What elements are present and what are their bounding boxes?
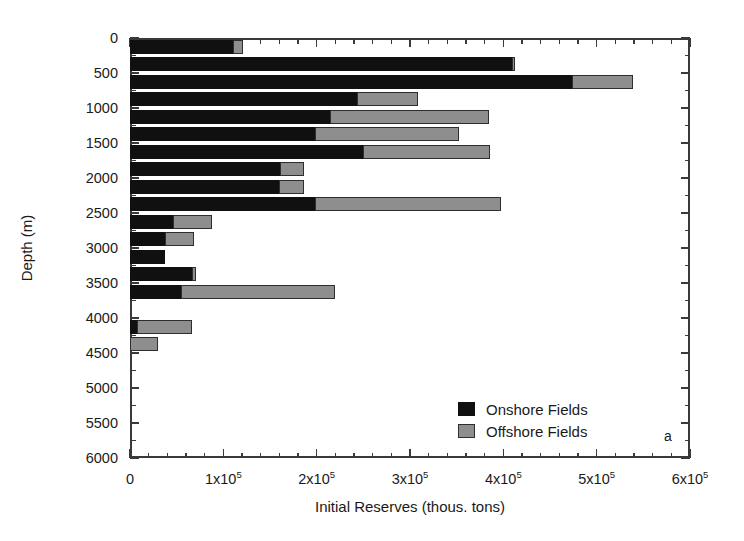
y-tick-label: 5000 <box>86 381 118 396</box>
x-minor-tick-top <box>372 38 373 44</box>
y-tick-label: 0 <box>110 31 118 46</box>
bar-segment-offshore <box>330 110 490 124</box>
bar-segment-onshore <box>130 40 233 54</box>
x-minor-tick <box>540 453 541 459</box>
x-minor-tick <box>465 453 466 459</box>
x-tick-label: 1x105 <box>205 472 242 487</box>
y-tick-label: 4500 <box>86 346 118 361</box>
x-minor-tick <box>185 453 186 459</box>
x-minor-tick-top <box>615 38 616 44</box>
y-major-tick-right <box>681 352 690 353</box>
bar-segment-offshore <box>233 40 243 54</box>
x-axis-title: Initial Reserves (thous. tons) <box>315 498 505 515</box>
y-major-tick <box>130 457 139 458</box>
x-minor-tick <box>335 453 336 459</box>
bar-segment-offshore <box>512 57 516 71</box>
bar-segment-onshore <box>130 197 315 211</box>
y-minor-tick <box>130 300 136 301</box>
x-minor-tick <box>260 453 261 459</box>
y-minor-tick-right <box>685 265 691 266</box>
bar-segment-onshore <box>130 215 173 229</box>
y-minor-tick-right <box>685 335 691 336</box>
y-major-tick-right <box>681 247 690 248</box>
y-minor-tick <box>130 55 136 56</box>
bar-segment-offshore <box>130 337 158 351</box>
bar-segment-onshore <box>130 110 330 124</box>
bar-segment-offshore <box>280 162 303 176</box>
x-minor-tick <box>297 453 298 459</box>
legend-label-offshore: Offshore Fields <box>486 423 587 440</box>
x-tick-label: 0 <box>126 472 134 487</box>
bar-segment-offshore <box>363 145 490 159</box>
y-minor-tick-right <box>685 300 691 301</box>
x-major-tick <box>503 449 504 458</box>
y-minor-tick <box>130 335 136 336</box>
x-tick-label: 4x105 <box>485 472 522 487</box>
y-major-tick-right <box>681 37 690 38</box>
x-minor-tick-top <box>260 38 261 44</box>
y-major-tick-right <box>681 422 690 423</box>
bar-segment-onshore <box>130 162 280 176</box>
y-major-tick-right <box>681 142 690 143</box>
bar-segment-onshore <box>130 250 165 264</box>
x-minor-tick <box>559 453 560 459</box>
y-minor-tick-right <box>685 125 691 126</box>
y-major-tick <box>130 282 139 283</box>
y-tick-label: 2500 <box>86 206 118 221</box>
y-major-tick <box>130 317 139 318</box>
bar-segment-onshore <box>130 285 181 299</box>
bar-segment-offshore <box>173 215 212 229</box>
x-minor-tick-top <box>465 38 466 44</box>
x-major-tick-top <box>503 38 504 47</box>
bar-segment-offshore <box>165 232 195 246</box>
y-minor-tick <box>130 90 136 91</box>
y-minor-tick-right <box>685 405 691 406</box>
x-minor-tick-top <box>391 38 392 44</box>
y-major-tick <box>130 177 139 178</box>
x-minor-tick-top <box>671 38 672 44</box>
bar-segment-offshore <box>137 320 192 334</box>
y-major-tick <box>130 72 139 73</box>
x-minor-tick <box>148 453 149 459</box>
y-minor-tick-right <box>685 370 691 371</box>
x-minor-tick <box>671 453 672 459</box>
y-major-tick-right <box>681 457 690 458</box>
y-major-tick <box>130 387 139 388</box>
x-minor-tick <box>241 453 242 459</box>
bar-segment-onshore <box>130 57 512 71</box>
x-minor-tick-top <box>353 38 354 44</box>
y-minor-tick-right <box>685 440 691 441</box>
y-minor-tick-right <box>685 55 691 56</box>
bar-segment-offshore <box>572 75 633 89</box>
x-minor-tick <box>633 453 634 459</box>
x-minor-tick <box>652 453 653 459</box>
bar-segment-offshore <box>315 127 460 141</box>
x-minor-tick <box>353 453 354 459</box>
x-minor-tick <box>521 453 522 459</box>
x-minor-tick-top <box>540 38 541 44</box>
legend-item-offshore: Offshore Fields <box>458 420 638 442</box>
y-major-tick <box>130 107 139 108</box>
x-minor-tick <box>391 453 392 459</box>
bar-segment-onshore <box>130 92 357 106</box>
plot-area <box>130 38 690 458</box>
x-major-tick <box>316 449 317 458</box>
x-tick-label: 3x105 <box>392 472 429 487</box>
x-minor-tick <box>372 453 373 459</box>
y-major-tick <box>130 352 139 353</box>
legend-label-onshore: Onshore Fields <box>486 401 588 418</box>
x-minor-tick-top <box>335 38 336 44</box>
y-major-tick <box>130 142 139 143</box>
x-minor-tick-top <box>559 38 560 44</box>
x-minor-tick-top <box>484 38 485 44</box>
x-major-tick-top <box>596 38 597 47</box>
legend-item-onshore: Onshore Fields <box>458 398 638 420</box>
y-major-tick <box>130 212 139 213</box>
y-minor-tick <box>130 405 136 406</box>
bar-segment-offshore <box>181 285 335 299</box>
y-minor-tick <box>130 230 136 231</box>
y-minor-tick <box>130 370 136 371</box>
chart-legend: Onshore Fields Offshore Fields <box>458 398 638 442</box>
x-major-tick-top <box>316 38 317 47</box>
legend-swatch-offshore-icon <box>458 424 475 438</box>
